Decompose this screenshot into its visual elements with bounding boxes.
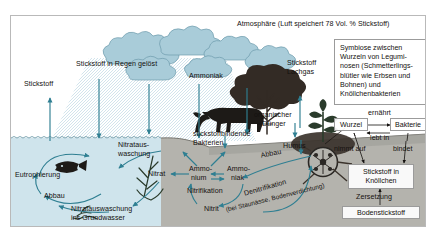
label-nitrat: Nitrat (148, 170, 165, 178)
symbiose-line-5: Knöllchenbakterien (340, 90, 421, 99)
node-bakterie: Bakterie (390, 118, 426, 131)
symbiose-line-0: Symbiose zwischen (340, 44, 421, 53)
symbiose-line-4: Bohnen) und (340, 81, 421, 90)
label-nitrataus-gw-2: ins Grundwasser (71, 214, 125, 222)
label-organischer-duenger-1: organischer (254, 111, 292, 119)
label-abbau-water: Abbau (44, 192, 65, 200)
label-ammoniak-cloud: Ammoniak (189, 72, 223, 80)
edge-nimmt-auf: nimmt auf (334, 145, 366, 153)
node-stickstoff-knoellchen-line1: Stickstoff in (349, 168, 413, 177)
edge-ernaehrt: ernährt (368, 109, 391, 117)
label-humus: Humus (283, 142, 306, 150)
label-nitrifikation: Nitrifikation (187, 187, 223, 195)
symbiose-line-1: Wurzeln von Legumi- (340, 53, 421, 62)
node-bodenstickstoff: Bodenstickstoff (342, 206, 420, 219)
label-stickstoffbindende-2: Bakterien (193, 139, 223, 147)
node-wurzel: Wurzel (334, 118, 368, 131)
node-stickstoff-knoellchen-line2: Knöllchen (349, 177, 413, 186)
label-ammoniak-soil-1: Ammo- (227, 165, 250, 173)
symbiose-line-2: nosen (Schmetterlings- (340, 62, 421, 71)
figure-frame: Atmosphäre (Luft speichert 78 Vol. % Sti… (10, 15, 426, 227)
label-stickstoff-left: Stickstoff (24, 80, 53, 88)
edge-zersetzung: Zersetzung (356, 193, 392, 201)
label-organischer-duenger-2: Dünger (262, 120, 286, 128)
label-stickstoff-lachgas-1: Stickstoff (287, 59, 316, 67)
symbiose-line-3: blütler wie Erbsen und (340, 72, 421, 81)
symbiose-cycle-diagram: Wurzel Bakterie ernährt lebt in nimmt au… (334, 109, 426, 223)
edge-bindet: bindet (393, 145, 413, 153)
label-stickstoff-in-regen: Stickstoff in Regen gelöst (76, 60, 157, 68)
label-nitrataus-2: waschung (118, 150, 150, 158)
nitrogen-cycle-figure: Atmosphäre (Luft speichert 78 Vol. % Sti… (0, 0, 436, 240)
node-stickstoff-knoellchen: Stickstoff in Knöllchen (348, 164, 414, 189)
label-nitrataus-gw-1: Nitratauswaschung (71, 205, 132, 213)
atmosphere-label: Atmosphäre (Luft speichert 78 Vol. % Sti… (237, 20, 390, 28)
edge-lebt-in: lebt in (370, 134, 389, 142)
line-wurzel-down (354, 133, 355, 136)
label-ammonium-2: nium (191, 174, 207, 182)
symbiose-info-box: Symbiose zwischen Wurzeln von Legumi- no… (334, 39, 426, 105)
label-ammoniak-soil-2: niak (231, 174, 244, 182)
label-stickstoffbindende-1: stickstoffbindende (193, 130, 251, 138)
label-nitrit: Nitrit (204, 205, 219, 213)
line-bakterie-down (407, 133, 408, 141)
label-ammonium-1: Ammo- (189, 165, 212, 173)
label-nitrataus-1: Nitrataus- (118, 141, 149, 149)
label-stickstoff-lachgas-2: Lachgas (287, 68, 314, 76)
label-eutrophierung: Eutrophierung (15, 171, 60, 179)
